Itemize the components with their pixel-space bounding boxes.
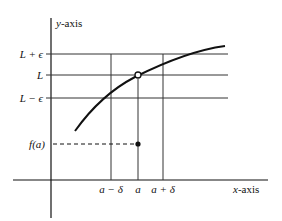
label-L: L (36, 69, 43, 81)
label-L-plus-epsilon: L + ϵ (19, 48, 44, 60)
x-axis-label: x-axis (232, 183, 259, 195)
y-axis-label: y-axis (55, 17, 82, 29)
open-circle-a-L (135, 72, 141, 78)
filled-dot-a-fa (135, 141, 140, 146)
epsilon-delta-diagram: y-axis x-axis L + ϵ L L − ϵ f(a) a − δ a… (0, 0, 282, 221)
label-a-minus-delta: a − δ (99, 183, 123, 195)
diagram-canvas: y-axis x-axis L + ϵ L L − ϵ f(a) a − δ a… (0, 0, 282, 221)
label-f-a: f(a) (29, 138, 45, 151)
label-L-minus-epsilon: L − ϵ (19, 92, 44, 104)
label-a-plus-delta: a + δ (151, 183, 175, 195)
label-a: a (135, 183, 141, 195)
function-curve (75, 46, 225, 131)
